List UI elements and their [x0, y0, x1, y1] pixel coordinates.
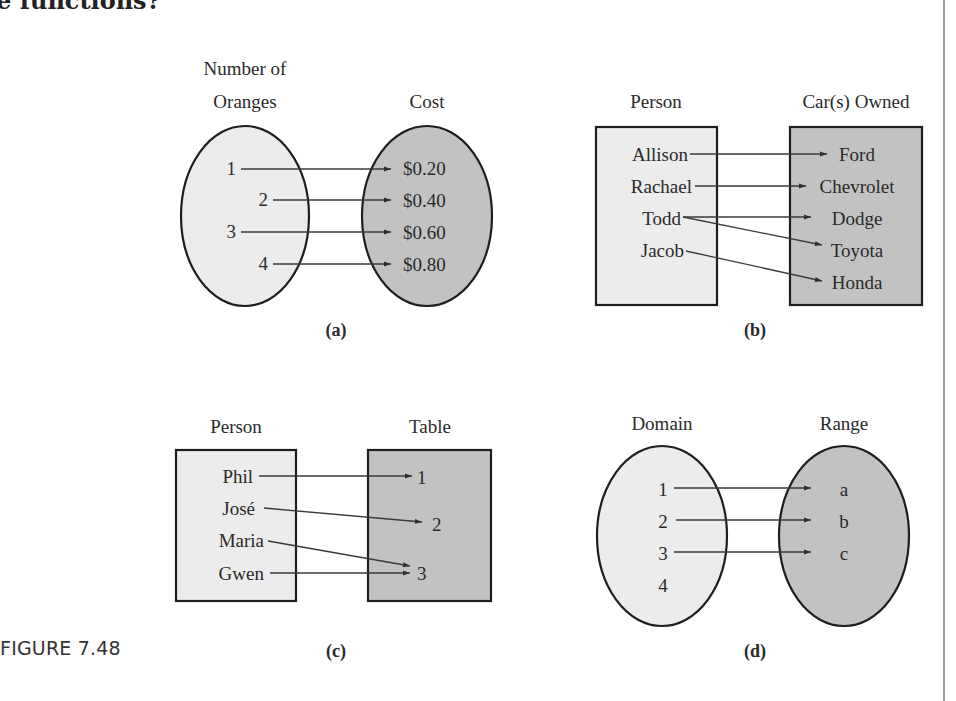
panel-c-domain-item: Phil	[222, 466, 253, 487]
panel-c-domain-item: José	[222, 498, 255, 519]
panel-d-sublabel: (d)	[744, 641, 766, 662]
panel-b-domain-item: Jacob	[641, 240, 684, 261]
panel-b-domain-item: Rachael	[631, 176, 692, 197]
panel-c-sublabel: (c)	[326, 641, 346, 662]
panel-b-sublabel: (b)	[744, 320, 766, 341]
panel-c-range-box	[368, 450, 491, 601]
panel-a-right-title: Cost	[410, 91, 446, 112]
panel-a-sublabel: (a)	[326, 320, 347, 341]
panel-d-range-item: b	[839, 511, 849, 532]
panel-a-domain-item: 3	[227, 221, 237, 242]
panel-b-left-title: Person	[630, 91, 682, 112]
panel-d-domain-item: 1	[658, 479, 668, 500]
panel-d-domain-item: 3	[658, 543, 668, 564]
panel-b-range-item: Toyota	[831, 240, 884, 261]
panel-a-range-item: $0.40	[403, 190, 446, 211]
panel-d-domain-item: 4	[658, 575, 668, 596]
panel-c-range-item: 1	[417, 467, 427, 488]
panel-b-range-item: Chevrolet	[820, 176, 896, 197]
panel-c-domain-item: Maria	[219, 530, 265, 551]
figure-diagrams: Number of Oranges Cost 1 2 3 4 $0.20 $0.…	[0, 0, 956, 701]
panel-d: Domain Range 1 2 3 4 a b c (d)	[597, 413, 909, 662]
panel-b: Person Car(s) Owned Allison Rachael Todd…	[596, 91, 922, 341]
panel-c-left-title: Person	[210, 416, 262, 437]
panel-d-right-title: Range	[820, 413, 869, 434]
textbook-page: e functions? Number of Oranges Cost 1 2 …	[0, 0, 956, 701]
panel-a-domain-item: 2	[259, 189, 269, 210]
panel-d-range-item: a	[840, 479, 849, 500]
panel-b-domain-item: Allison	[632, 144, 688, 165]
panel-a-range-ellipse	[362, 126, 492, 306]
panel-b-range-item: Dodge	[832, 208, 883, 229]
panel-c-right-title: Table	[409, 416, 451, 437]
panel-d-range-item: c	[840, 543, 848, 564]
panel-a-left-title-line1: Number of	[204, 58, 288, 79]
panel-a-range-item: $0.80	[403, 254, 446, 275]
panel-a-range-item: $0.20	[403, 158, 446, 179]
panel-b-range-item: Honda	[832, 272, 883, 293]
figure-caption: FIGURE 7.48	[0, 637, 121, 659]
panel-d-domain-ellipse	[597, 446, 727, 626]
panel-c-domain-item: Gwen	[219, 563, 265, 584]
panel-b-right-title: Car(s) Owned	[802, 91, 910, 113]
panel-a-left-title-line2: Oranges	[213, 91, 276, 112]
panel-b-range-item: Ford	[839, 144, 875, 165]
panel-a-domain-ellipse	[181, 126, 309, 306]
panel-c: Person Table Phil José Maria Gwen 1 2 3 …	[176, 416, 491, 662]
panel-a-domain-item: 4	[259, 253, 269, 274]
panel-c-range-item: 3	[417, 563, 427, 584]
panel-c-range-item: 2	[432, 514, 442, 535]
panel-a-range-item: $0.60	[403, 222, 446, 243]
panel-b-domain-item: Todd	[642, 208, 681, 229]
panel-d-range-ellipse	[779, 446, 909, 626]
panel-a: Number of Oranges Cost 1 2 3 4 $0.20 $0.…	[181, 58, 492, 341]
panel-d-domain-item: 2	[658, 511, 668, 532]
panel-a-domain-item: 1	[227, 158, 237, 179]
panel-d-left-title: Domain	[631, 413, 693, 434]
